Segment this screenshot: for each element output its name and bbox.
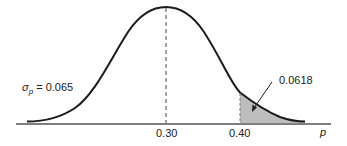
x-axis-label: p	[320, 127, 326, 138]
tail-area-label: 0.0618	[279, 75, 313, 86]
sigma-label: σp = 0.065	[22, 82, 73, 96]
tick-label-cutoff: 0.40	[229, 128, 250, 139]
sigma-value: = 0.065	[33, 81, 73, 93]
tail-shaded-area	[240, 93, 305, 124]
normal-curve-diagram	[0, 0, 347, 146]
sigma-symbol: σ	[22, 81, 29, 93]
annotation-arrow	[254, 82, 272, 108]
tick-label-mean: 0.30	[156, 128, 177, 139]
